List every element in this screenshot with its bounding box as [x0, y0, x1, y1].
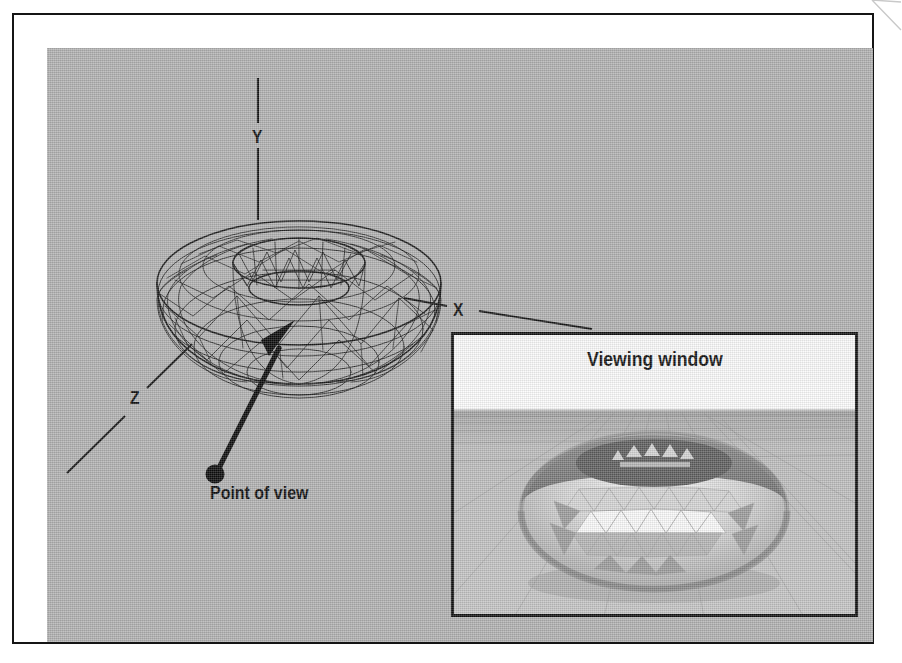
point-of-view-marker: [206, 465, 225, 484]
figure-canvas: Y X Z Point of view Viewing window: [0, 0, 902, 663]
figure-plate: Y X Z Point of view Viewing window: [47, 48, 873, 642]
point-of-view-label: Point of view: [210, 482, 308, 504]
axis-label-y: Y: [252, 126, 263, 148]
rendered-3d-scene: [454, 383, 855, 617]
viewing-window[interactable]: Viewing window: [451, 332, 858, 617]
viewing-window-scene: [454, 383, 855, 617]
axis-label-z: Z: [130, 387, 140, 409]
viewing-window-title-band: Viewing window: [454, 335, 855, 383]
torus-shaded: [521, 433, 787, 589]
torus-wireframe: [157, 221, 441, 398]
axis-label-x: X: [453, 299, 464, 321]
figure-frame: Y X Z Point of view Viewing window: [12, 13, 874, 644]
viewing-window-title: Viewing window: [587, 347, 723, 371]
